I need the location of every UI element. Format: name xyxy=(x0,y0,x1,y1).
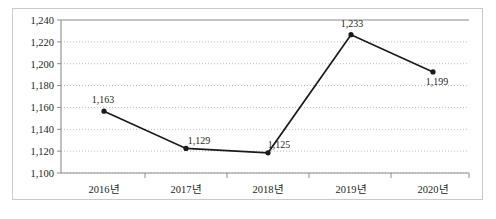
x-tick-label-2017: 2017년 xyxy=(171,184,202,195)
x-tick-label-2016: 2016년 xyxy=(89,184,120,195)
series-line xyxy=(104,35,433,153)
data-label-2018: 1,125 xyxy=(268,139,291,150)
y-tick-label: 1,140 xyxy=(30,124,54,135)
y-tick-label: 1,120 xyxy=(30,146,54,157)
data-label-2019: 1,233 xyxy=(341,18,364,29)
y-tick-label: 1,220 xyxy=(30,37,54,48)
x-tick-label-2020: 2020년 xyxy=(418,184,449,195)
chart-plot-area: 1,240 1,220 1,200 1,180 1,160 1,140 1,12… xyxy=(13,9,484,201)
data-point-2016 xyxy=(101,109,106,114)
data-point-2020 xyxy=(430,69,435,74)
y-tick-label: 1,160 xyxy=(30,102,54,113)
y-axis-ticks xyxy=(57,20,61,173)
x-tick-label-2018: 2018년 xyxy=(253,184,284,195)
y-tick-label: 1,240 xyxy=(30,15,54,26)
y-tick-label: 1,100 xyxy=(30,168,54,179)
y-tick-label: 1,180 xyxy=(30,80,54,91)
y-axis-tick-labels: 1,240 1,220 1,200 1,180 1,160 1,140 1,12… xyxy=(30,15,54,179)
data-label-2016: 1,163 xyxy=(92,94,115,105)
line-chart-figure: 1,240 1,220 1,200 1,180 1,160 1,140 1,12… xyxy=(12,8,483,200)
x-axis-ticks xyxy=(145,173,469,178)
x-tick-label-2019: 2019년 xyxy=(336,184,367,195)
data-point-2019 xyxy=(348,32,353,37)
x-axis-tick-labels: 2016년 2017년 2018년 2019년 2020년 xyxy=(89,184,449,195)
data-label-2020: 1,199 xyxy=(426,76,449,87)
y-tick-label: 1,200 xyxy=(30,59,54,70)
data-point-2017 xyxy=(183,146,188,151)
data-point-2018 xyxy=(265,150,270,155)
data-label-2017: 1,129 xyxy=(188,135,211,146)
